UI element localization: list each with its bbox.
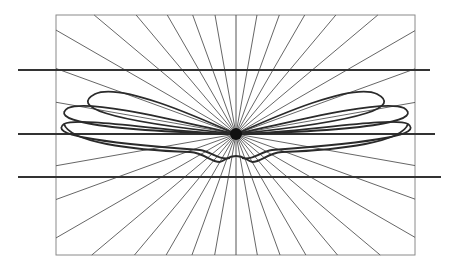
- left-lobe: [88, 92, 236, 134]
- polar-radiation-diagram: [0, 0, 457, 268]
- diagram-canvas: [0, 0, 457, 268]
- right-lobe: [236, 92, 384, 134]
- origin-point: [230, 128, 242, 140]
